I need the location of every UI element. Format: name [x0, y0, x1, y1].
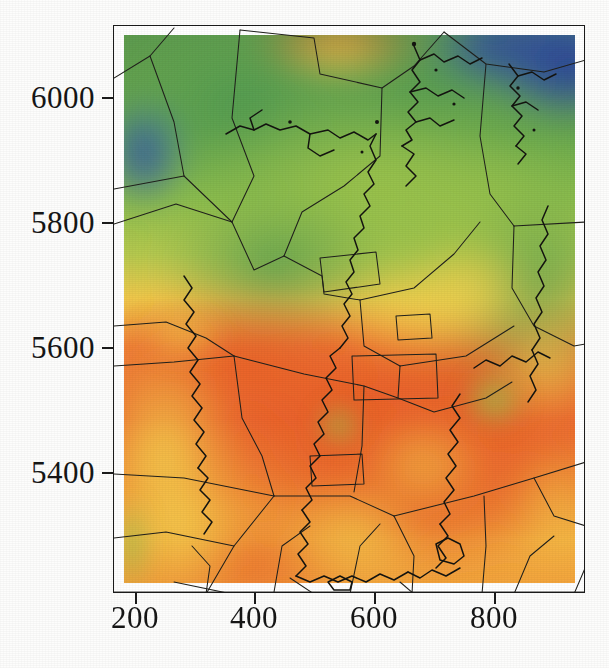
- x-tick-label-800: 800: [439, 600, 549, 636]
- x-tick-label-200: 200: [80, 600, 190, 636]
- y-tick-label-6000: 6000: [0, 80, 95, 116]
- y-tick-label-5600: 5600: [0, 330, 95, 366]
- y-tick-mark-3: [102, 472, 113, 474]
- interpolated-surface-raster: [124, 35, 575, 583]
- x-tick-label-400: 400: [199, 600, 309, 636]
- y-tick-label-5800: 5800: [0, 205, 95, 241]
- figure-container: 200 400 600 800 6000 5800 5600 5400: [0, 0, 609, 668]
- y-tick-mark-2: [102, 347, 113, 349]
- y-tick-mark-0: [102, 97, 113, 99]
- plot-frame: [113, 25, 585, 593]
- y-tick-label-5400: 5400: [0, 455, 95, 491]
- x-tick-label-600: 600: [319, 600, 429, 636]
- raster-surface-wrapper: [124, 35, 575, 583]
- y-tick-mark-1: [102, 222, 113, 224]
